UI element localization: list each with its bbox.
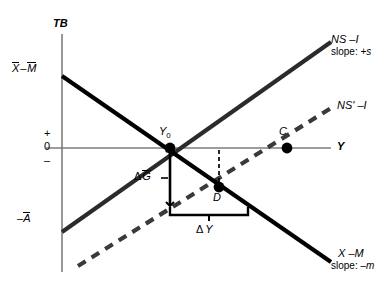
curve-label-ns-prime-minus-i: NS' –I [337, 100, 367, 112]
axis-tick-zero: 0 [44, 141, 50, 153]
curve-slope-ns-minus-i: slope: +s [331, 47, 371, 58]
g-bar-symbol: G [142, 171, 151, 183]
m-bar-symbol: M [27, 63, 36, 75]
a-bar-symbol: A [23, 213, 30, 225]
a-intercept-label: –A [17, 213, 30, 225]
point-label-y0: Y0 [159, 126, 171, 141]
diagram-canvas: TB Y X – M –A + 0 – NS –I slope: +s NS' … [0, 0, 390, 289]
delta-y-bracket [170, 207, 248, 215]
delta-symbol-y: Δ [196, 223, 203, 235]
horizontal-axis-label: Y [337, 141, 344, 153]
curve-label-x-minus-m: X –M [338, 248, 364, 260]
point-label-d: D [213, 192, 221, 204]
x-bar-symbol: X [12, 63, 19, 75]
axis-tick-minus: – [44, 155, 50, 167]
annotation-delta-g: ΔG [134, 171, 151, 183]
annotation-delta-y: ΔY [196, 224, 213, 236]
point-label-c: C [279, 126, 287, 138]
curve-label-ns-minus-i: NS –I [331, 34, 359, 46]
point-label-y0-sub: 0 [166, 131, 170, 140]
axis-tick-plus: + [44, 128, 50, 140]
slope-value-x-minus-m: –m [360, 260, 374, 271]
delta-symbol-g: Δ [134, 170, 141, 182]
point-marker-c [282, 143, 293, 154]
xm-intercept-label: X – M [12, 63, 36, 75]
curve-ns-minus-i [62, 42, 331, 232]
vertical-axis-label: TB [53, 18, 68, 30]
curve-slope-x-minus-m: slope: –m [331, 261, 374, 272]
slope-value-ns-minus-i: +s [360, 46, 371, 57]
y-variable-symbol: Y [205, 223, 212, 235]
point-marker-y0 [165, 143, 176, 154]
